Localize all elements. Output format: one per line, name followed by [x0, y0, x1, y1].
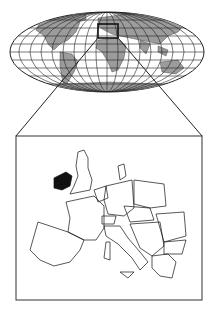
inset-frame — [16, 136, 202, 300]
diagram-canvas — [0, 0, 215, 312]
world-map — [0, 10, 215, 94]
